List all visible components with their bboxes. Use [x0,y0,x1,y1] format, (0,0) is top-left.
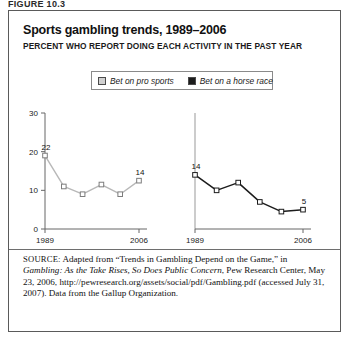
figure-box: Sports gambling trends, 1989–2006 PERCEN… [8,10,341,332]
legend-swatch-horse-race [188,77,196,85]
svg-text:1989: 1989 [186,236,204,245]
svg-text:0: 0 [34,225,39,234]
figure-title: Sports gambling trends, 1989–2006 [23,23,226,37]
svg-text:2006: 2006 [130,236,148,245]
svg-text:1989: 1989 [36,236,54,245]
legend-item-horse-race: Bet on a horse race [188,76,273,86]
charts-container: 0102030198920062214 19892006145 [9,97,342,245]
legend-label-pro-sports: Bet on pro sports [110,76,174,86]
figure-subtitle: PERCENT WHO REPORT DOING EACH ACTIVITY I… [23,41,302,51]
chart-horse-race-plot: 19892006145 [177,97,337,245]
svg-text:10: 10 [29,186,38,195]
svg-text:2006: 2006 [294,236,312,245]
legend-label-horse-race: Bet on a horse race [200,76,273,86]
source-divider [9,249,340,250]
svg-text:20: 20 [29,148,38,157]
figure-number-label: FIGURE 10.3 [8,0,128,9]
chart-legend: Bet on pro sports Bet on a horse race [91,71,273,90]
svg-text:14: 14 [136,168,145,177]
chart-pro-sports-plot: 0102030198920062214 [15,97,175,245]
svg-text:30: 30 [29,109,38,118]
svg-text:14: 14 [192,162,201,171]
svg-text:22: 22 [42,143,51,152]
source-note: SOURCE: Adapted from “Trends in Gambling… [23,254,325,300]
chart-horse-race: 19892006145 [177,97,337,245]
legend-swatch-pro-sports [98,77,106,85]
svg-text:5: 5 [302,197,307,206]
legend-item-pro-sports: Bet on pro sports [98,76,174,86]
source-label: SOURCE: [23,254,61,264]
chart-pro-sports: 0102030198920062214 [15,97,175,245]
source-text-italic: Gambling: As the Take Rises, So Does Pub… [23,265,222,275]
source-text-part1: Adapted from “Trends in Gambling Depend … [61,254,288,264]
